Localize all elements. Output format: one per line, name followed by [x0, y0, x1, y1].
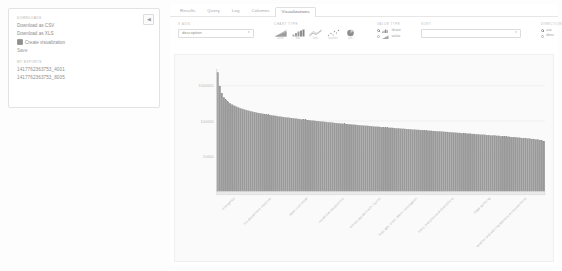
chart-type-name: scatter — [328, 38, 337, 41]
direction-option-label: asc — [546, 29, 552, 33]
export-file-item[interactable]: 1417762363753_4001 — [17, 67, 151, 72]
svg-text:heat, gas, smell, alarm invest: heat, gas, smell, alarm investigation — [377, 196, 418, 237]
downloads-header: DOWNLOADS — [17, 16, 151, 20]
svg-text:1000000: 1000000 — [198, 83, 214, 88]
downloads-panel: DOWNLOADS Download as CSV Download as XL… — [8, 8, 160, 108]
chart-type-option-area[interactable]: area — [274, 29, 287, 41]
svg-text:water pipe break: water pipe break — [288, 196, 309, 217]
chart-container: 100001000001000000 emergencyfire departm… — [174, 54, 554, 262]
chevron-down-icon: ▾ — [515, 31, 517, 34]
chart-type-label: CHART TYPE — [274, 22, 357, 26]
create-visualization-checkbox[interactable]: Create visualization — [17, 39, 151, 45]
radio-icon[interactable] — [541, 29, 544, 32]
value-area-icon — [382, 35, 389, 39]
my-exports-header: MY EXPORTS — [17, 60, 151, 64]
download-csv-link[interactable]: Download as CSV — [17, 23, 151, 29]
direction-option-label: desc — [546, 34, 554, 38]
svg-text:100000: 100000 — [201, 119, 215, 124]
tab-results[interactable]: Results — [174, 6, 201, 16]
bar-chart[interactable]: 100001000001000000 emergencyfire departm… — [175, 55, 553, 261]
sort-control: SORT ▾ — [421, 22, 521, 38]
app-screen: DOWNLOADS Download as CSV Download as XL… — [0, 0, 562, 271]
value-type-option-value[interactable]: value — [377, 35, 401, 39]
x-axis-select[interactable]: description ▾ — [178, 29, 254, 38]
chart-type-option-bar[interactable]: bar — [292, 29, 305, 41]
chart-type-option-pie[interactable]: pie — [344, 29, 357, 41]
direction-label: DIRECTION — [541, 22, 562, 26]
bar-chart-icon — [292, 29, 305, 37]
value-type-option-share[interactable]: share — [377, 29, 401, 33]
svg-text:vehicle accident with injuries: vehicle accident with injuries — [349, 196, 382, 229]
tab-bar: Results Query Log Columns Visualizations — [170, 4, 558, 17]
svg-text:residential structure fire: residential structure fire — [318, 196, 346, 224]
chart-y-axis: 100001000001000000 — [198, 69, 216, 192]
x-axis-control: X AXIS description ▾ — [178, 22, 254, 38]
svg-text:illegal dumping: illegal dumping — [472, 196, 491, 215]
radio-icon[interactable] — [377, 29, 380, 32]
checkbox-icon[interactable] — [17, 39, 23, 45]
x-axis-value: description — [182, 31, 202, 35]
tab-log[interactable]: Log — [226, 6, 246, 16]
sort-select[interactable]: ▾ — [421, 29, 521, 38]
direction-option-asc[interactable]: asc — [541, 29, 562, 33]
sort-label: SORT — [421, 22, 521, 26]
value-type-control: VALUE TYPE share val — [377, 22, 401, 41]
chart-type-option-scatter[interactable]: scatter — [327, 29, 340, 41]
chart-x-axis: emergencyfire department responsewater p… — [217, 192, 545, 249]
radio-icon[interactable] — [541, 35, 544, 38]
download-xls-link[interactable]: Download as XLS — [17, 31, 151, 37]
svg-text:trees, branches and obstructio: trees, branches and obstructions — [417, 196, 455, 233]
svg-text:10000: 10000 — [203, 154, 215, 159]
share-bars-icon — [382, 29, 389, 33]
export-file-item[interactable]: 1417762363753_8005 — [17, 75, 151, 80]
svg-text:emergency: emergency — [221, 196, 236, 211]
x-axis-label: X AXIS — [178, 22, 254, 26]
direction-control: DIRECTION asc desc — [541, 22, 562, 40]
pie-chart-icon — [344, 29, 357, 37]
radio-icon[interactable] — [377, 35, 380, 38]
chart-type-option-line[interactable]: line — [309, 29, 322, 41]
chart-type-name: line — [313, 38, 318, 41]
tab-columns[interactable]: Columns — [245, 6, 275, 16]
value-type-label: VALUE TYPE — [377, 22, 401, 26]
create-visualization-label: Create visualization — [25, 40, 65, 45]
tab-visualizations[interactable]: Visualizations — [275, 7, 315, 17]
visualizations-panel: Results Query Log Columns Visualizations… — [170, 4, 558, 267]
chart-controls: X AXIS description ▾ CHART TYPE are — [170, 17, 558, 53]
chart-type-name: pie — [348, 38, 352, 41]
scatter-chart-icon — [327, 29, 340, 37]
area-chart-icon — [274, 29, 287, 37]
chevron-left-icon[interactable]: ◀ — [143, 14, 154, 25]
chart-type-name: area — [277, 38, 283, 41]
chart-type-control: CHART TYPE area — [274, 22, 357, 41]
line-chart-icon — [309, 29, 322, 37]
value-type-option-label: value — [391, 35, 400, 39]
svg-text:fire department response: fire department response — [243, 196, 272, 225]
tab-query[interactable]: Query — [201, 6, 225, 16]
direction-option-desc[interactable]: desc — [541, 34, 562, 38]
chart-bars — [217, 72, 545, 191]
chart-type-name: bar — [296, 38, 300, 41]
value-type-option-label: share — [391, 29, 401, 33]
chevron-down-icon: ▾ — [248, 31, 250, 34]
chart-type-options: area bar — [274, 29, 357, 41]
save-button[interactable]: Save — [17, 48, 151, 53]
